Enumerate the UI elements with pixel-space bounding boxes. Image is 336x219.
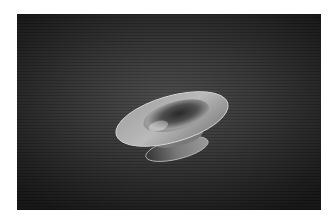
bowl-render [17,14,321,210]
render-viewport [17,14,321,210]
